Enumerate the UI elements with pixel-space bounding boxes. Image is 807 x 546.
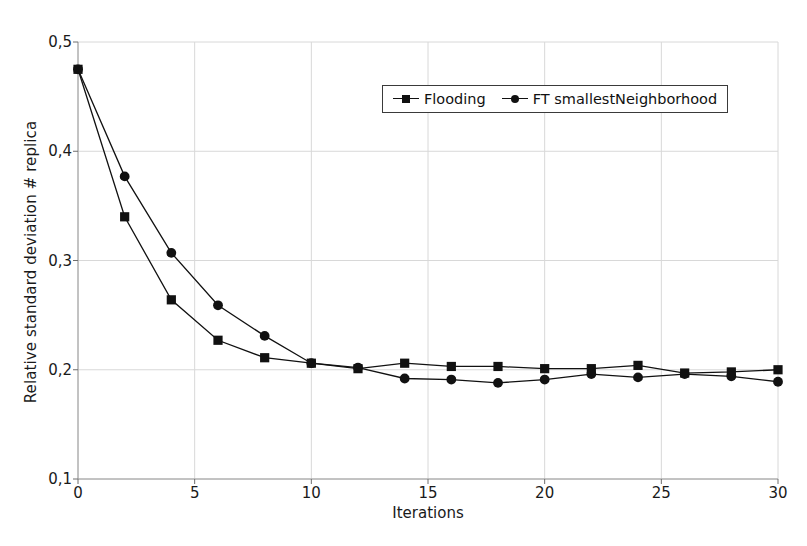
x-tick-label: 0 [58,484,98,502]
y-tick-label-text: 0,3 [26,252,72,270]
legend-item-ft-smallest-neighborhood: FT smallestNeighborhood [502,92,717,107]
y-tick-label-text: 0,2 [26,361,72,379]
x-tick-label: 25 [641,484,681,502]
x-tick-label: 30 [758,484,798,502]
square-marker-icon [393,93,419,105]
legend-label-flooding: Flooding [424,92,486,107]
legend-label-ft-smallest-neighborhood: FT smallestNeighborhood [533,92,717,107]
y-tick-label-text: 0,5 [26,33,72,51]
circle-marker-icon [502,93,528,105]
x-tick-label: 15 [408,484,448,502]
y-tick-label-text: 0,4 [26,142,72,160]
legend-item-flooding: Flooding [393,92,486,107]
x-tick-label: 5 [175,484,215,502]
plot-area [0,0,807,546]
x-tick-label: 20 [525,484,565,502]
chart-legend: Flooding FT smallestNeighborhood [382,85,728,113]
chart-figure: Relative standard deviation # replica It… [0,0,807,546]
x-tick-label: 10 [291,484,331,502]
